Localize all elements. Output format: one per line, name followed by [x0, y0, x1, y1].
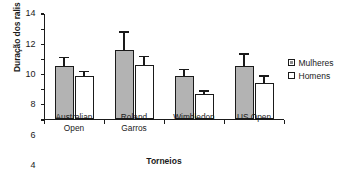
legend: MulheresHomens [288, 56, 333, 82]
x-group-label: US Open [214, 112, 294, 123]
error-bar-cap [59, 57, 69, 58]
y-tick-mark: 10 [41, 44, 45, 45]
error-bar-cap [179, 69, 189, 70]
error-bar-stem [263, 75, 264, 83]
error-bar-cap [239, 53, 249, 54]
error-bar-cap [199, 90, 209, 91]
legend-label: Mulheres [299, 58, 334, 68]
y-tick-mark: 2 [41, 104, 45, 105]
y-tick-mark: 8 [41, 59, 45, 60]
error-bar-cap [79, 71, 89, 72]
error-bar-cap [119, 31, 129, 32]
empty-white-square-icon [288, 72, 295, 79]
y-tick-label: 12 [25, 39, 35, 49]
filled-gray-square-icon [288, 59, 295, 66]
y-tick-mark: 12 [41, 29, 45, 30]
error-bar-cap [259, 75, 269, 76]
error-bar-stem [183, 69, 184, 77]
legend-item: Mulheres [288, 56, 333, 69]
y-tick-mark: 14 [41, 13, 45, 14]
y-tick-mark: 4 [41, 89, 45, 90]
y-axis-line [44, 14, 45, 120]
y-tick-label: 10 [25, 69, 35, 79]
plot-area: 02468101214 [44, 14, 284, 120]
error-bar-stem [243, 53, 244, 67]
bar-chart: Duração dos ralis (s) 02468101214 Austra… [0, 0, 349, 179]
error-bar-cap [139, 56, 149, 57]
error-bar-stem [123, 31, 124, 51]
error-bar-stem [63, 57, 64, 66]
bar-roland-garros-mulheres [115, 50, 134, 119]
x-axis-title: Torneios [44, 156, 284, 166]
y-tick-label: 14 [25, 8, 35, 18]
legend-item: Homens [288, 69, 333, 82]
legend-label: Homens [299, 71, 331, 81]
y-tick-label: 8 [30, 99, 35, 109]
y-tick-mark: 6 [41, 74, 45, 75]
y-tick-label: 4 [30, 160, 35, 170]
y-axis-title: Duração dos ralis (s) [12, 0, 22, 86]
error-bar-stem [143, 56, 144, 66]
